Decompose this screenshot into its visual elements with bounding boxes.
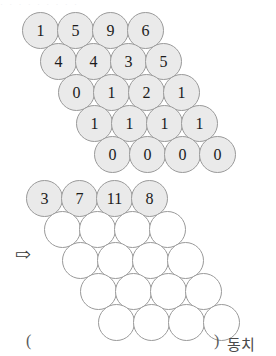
worksheet-canvas: · · · · · · · · · 15964435012111110000 ⇨… xyxy=(0,0,276,356)
paren-open: ( xyxy=(26,332,31,350)
blank-number-triangle: 37118 xyxy=(0,0,276,356)
answer-keyword: 동치 xyxy=(227,333,255,354)
paren-close: ) xyxy=(214,332,219,350)
answer-line: ( ) 동치 xyxy=(0,332,276,356)
